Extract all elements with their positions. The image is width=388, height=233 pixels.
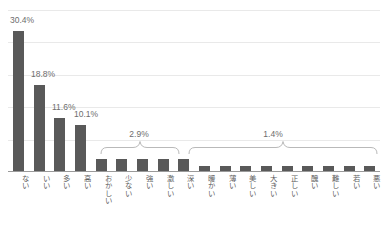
x-axis-label-0: ない <box>8 174 29 189</box>
group-label-b: 1.4% <box>253 129 293 139</box>
bar <box>96 159 107 172</box>
x-axis-label-16: 若い <box>339 174 360 189</box>
plot-area: 30.4% 18.8% 11.6% 10.1% 2.9% 1.4% <box>8 10 380 172</box>
brace-group-b-icon <box>188 141 378 155</box>
x-axis-label-13: 正しい <box>277 174 298 196</box>
x-axis-label-5: 少ない <box>111 174 132 196</box>
value-label-3: 10.1% <box>74 109 98 119</box>
bar <box>158 159 169 172</box>
x-axis-label-17: 悪い <box>359 174 380 189</box>
x-axis-label-7: 激しい <box>153 174 174 196</box>
x-axis-label-15: 難しい <box>318 174 339 196</box>
bar-chart: 30.4% 18.8% 11.6% 10.1% 2.9% 1.4% ないいい多い… <box>0 0 388 233</box>
value-label-2: 11.6% <box>52 102 75 112</box>
bar <box>54 118 65 172</box>
x-axis-label-8: 深い <box>173 174 194 189</box>
value-label-1: 18.8% <box>31 69 55 79</box>
x-axis-label-1: いい <box>29 174 50 189</box>
group-label-a: 2.9% <box>119 129 159 139</box>
x-axis-label-12: 大きい <box>256 174 277 196</box>
chart-caption <box>0 226 388 233</box>
x-axis-line <box>8 171 380 172</box>
value-label-0: 30.4% <box>10 15 34 25</box>
bar <box>178 159 189 172</box>
x-axis-label-11: 美しい <box>235 174 256 196</box>
x-axis-label-14: 醜い <box>297 174 318 189</box>
bar <box>137 159 148 172</box>
x-axis-tick-labels: ないいい多い高いおかしい少ない強い激しい深い暖かい薄い美しい大きい正しい醜い難し… <box>8 174 380 230</box>
x-axis-label-2: 多い <box>49 174 70 189</box>
bar <box>116 159 127 172</box>
x-axis-label-6: 強い <box>132 174 153 189</box>
x-axis-label-9: 暖かい <box>194 174 215 196</box>
bar <box>34 85 45 172</box>
x-axis-label-10: 薄い <box>215 174 236 189</box>
bar <box>75 125 86 172</box>
bar <box>13 31 24 172</box>
x-axis-label-4: おかしい <box>91 174 112 203</box>
brace-group-a-icon <box>100 141 180 155</box>
x-axis-label-3: 高い <box>70 174 91 189</box>
